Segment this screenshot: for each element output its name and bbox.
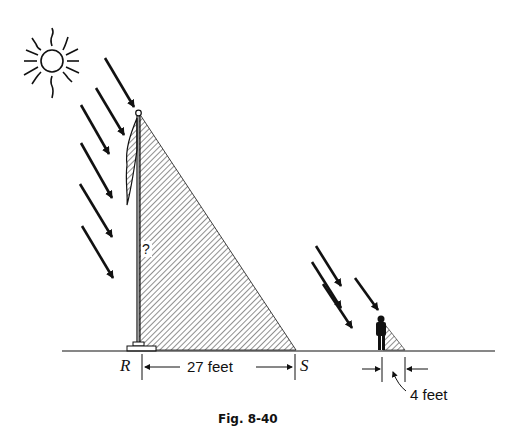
- point-s-label: S: [300, 356, 309, 375]
- person-silhouette: [376, 316, 386, 351]
- point-r-label: R: [119, 356, 131, 375]
- diagram-canvas: ? R S 27 feet: [0, 0, 523, 440]
- person-shadow-length: 4 feet: [410, 386, 448, 403]
- flagpole-shadow: [139, 113, 296, 350]
- flagpole-shadow-length: 27 feet: [187, 358, 234, 375]
- unknown-height-label: ?: [142, 241, 150, 257]
- sun-rays-right: [312, 246, 378, 328]
- sun-icon: [24, 28, 79, 98]
- person-shadow: [383, 322, 405, 350]
- figure-caption: Fig. 8-40: [218, 412, 278, 426]
- sun-rays-left: [80, 58, 134, 278]
- flag: [126, 118, 137, 205]
